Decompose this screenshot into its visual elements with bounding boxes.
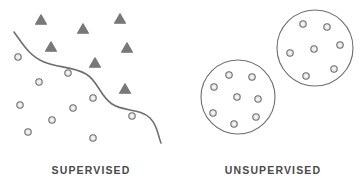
circle-marker-center — [228, 74, 230, 76]
circle-marker — [226, 72, 232, 78]
circle-marker — [303, 73, 309, 79]
circle-marker-center — [333, 68, 335, 70]
circle-marker — [311, 46, 317, 52]
circle-marker — [210, 110, 216, 116]
circle-marker-center — [92, 137, 94, 139]
circle-marker-center — [131, 115, 133, 117]
triangle-marker — [78, 24, 89, 33]
triangle-marker — [122, 43, 133, 52]
circle-marker — [300, 21, 306, 27]
circle-marker — [36, 79, 42, 85]
circle-marker-center — [302, 23, 304, 25]
circle-marker-center — [313, 48, 315, 50]
triangle-marker — [36, 15, 47, 24]
circle-marker-center — [67, 72, 69, 74]
triangle-marker — [115, 14, 126, 23]
circle-marker-center — [305, 75, 307, 77]
circle-marker-center — [19, 104, 21, 106]
panel-unsupervised: UNSUPERVISED — [182, 0, 364, 191]
circle-marker — [49, 117, 55, 123]
decision-boundary-curve — [14, 32, 161, 143]
unsupervised-circle-markers-group — [210, 21, 343, 127]
triangle-marker — [90, 58, 101, 67]
circle-marker — [17, 102, 23, 108]
unsupervised-cluster-svg — [182, 0, 364, 160]
circle-marker — [129, 113, 135, 119]
circle-marker — [255, 96, 261, 102]
panel-label-unsupervised: UNSUPERVISED — [182, 163, 364, 177]
diagram-root: SUPERVISED UNSUPERVISED — [0, 0, 364, 191]
circle-marker — [324, 24, 330, 30]
circle-marker-center — [92, 97, 94, 99]
circle-marker — [331, 66, 337, 72]
circle-marker-center — [72, 107, 74, 109]
circle-marker-center — [212, 112, 214, 114]
circle-marker-center — [257, 98, 259, 100]
triangle-marker — [46, 42, 57, 51]
circle-marker — [90, 95, 96, 101]
circle-marker — [25, 129, 31, 135]
unsupervised-figure — [182, 0, 364, 160]
circle-marker-center — [289, 52, 291, 54]
circle-marker-center — [38, 81, 40, 83]
circle-marker-center — [251, 76, 253, 78]
decision-boundary-group — [14, 32, 161, 143]
supervised-figure — [0, 0, 182, 160]
supervised-scatter-svg — [0, 0, 182, 160]
circle-marker-center — [51, 119, 53, 121]
triangle-marker — [120, 84, 131, 93]
circle-marker — [253, 114, 259, 120]
circle-marker — [231, 121, 237, 127]
circle-marker-center — [213, 86, 215, 88]
circle-marker — [90, 135, 96, 141]
circle-marker-center — [233, 123, 235, 125]
panel-label-supervised: SUPERVISED — [0, 163, 182, 177]
circle-marker — [249, 74, 255, 80]
panel-supervised: SUPERVISED — [0, 0, 182, 191]
circle-marker-center — [255, 116, 257, 118]
circle-marker — [65, 70, 71, 76]
supervised-triangle-markers-group — [36, 14, 133, 93]
circle-marker-center — [17, 56, 19, 58]
circle-marker-center — [326, 26, 328, 28]
circle-marker — [234, 94, 240, 100]
circle-marker — [70, 105, 76, 111]
circle-marker-center — [236, 96, 238, 98]
supervised-circle-markers-group — [15, 54, 135, 141]
circle-marker-center — [339, 44, 341, 46]
circle-marker-center — [27, 131, 29, 133]
circle-marker — [337, 42, 343, 48]
circle-marker — [287, 50, 293, 56]
circle-marker — [15, 54, 21, 60]
circle-marker — [211, 84, 217, 90]
